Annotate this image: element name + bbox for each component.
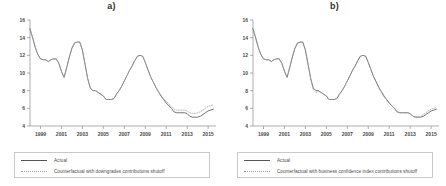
- panel-a-y-tick-label: 4: [22, 123, 25, 129]
- panel-a-y-tick-label: 10: [19, 70, 25, 76]
- panel-a-x-tick-label: 2009: [140, 131, 151, 137]
- legend-label-counterfactual: Counterfactual with downgrades contribut…: [54, 167, 165, 176]
- legend-item-actual: Actual: [238, 155, 432, 166]
- legend-label-actual: Actual: [277, 156, 290, 165]
- panel-a-x-tick-label: 2003: [77, 131, 88, 137]
- legend-item-actual: Actual: [15, 155, 209, 166]
- panel-a: a) 4681012141619992001200320052007200920…: [0, 0, 223, 186]
- panel-a-x-tick-label: 1999: [35, 131, 46, 137]
- panel-b-y-tick-label: 16: [242, 17, 248, 23]
- panel-b-x-tick-label: 2011: [384, 131, 395, 137]
- panel-b-x-tick-label: 2003: [300, 131, 311, 137]
- legend-item-counterfactual: Counterfactual with business confidence …: [238, 166, 432, 177]
- panel-a-x-tick-label: 2007: [119, 131, 130, 137]
- panel-b-chart-svg: 4681012141619992001200320052007200920112…: [223, 14, 446, 146]
- panel-a-chart-svg: 4681012141619992001200320052007200920112…: [0, 14, 223, 146]
- panel-a-series-actual: [30, 29, 213, 117]
- panel-a-x-tick-label: 2001: [56, 131, 67, 137]
- panel-b-series-actual: [253, 29, 436, 117]
- panel-a-x-tick-label: 2013: [182, 131, 193, 137]
- panel-a-y-tick-label: 14: [19, 35, 25, 41]
- figure-two-panel-line-charts: a) 4681012141619992001200320052007200920…: [0, 0, 446, 186]
- legend-label-counterfactual: Counterfactual with business confidence …: [277, 167, 417, 176]
- legend-line-sample-dotted-icon: [244, 171, 270, 173]
- legend-line-sample-solid-icon: [244, 160, 270, 162]
- panel-b: b) 4681012141619992001200320052007200920…: [223, 0, 446, 186]
- panel-a-series-counterfactual: [30, 29, 213, 114]
- panel-b-x-tick-label: 2013: [405, 131, 416, 137]
- panel-a-legend: Actual Counterfactual with downgrades co…: [14, 152, 210, 178]
- panel-b-series-counterfactual: [253, 29, 436, 117]
- panel-b-legend: Actual Counterfactual with business conf…: [237, 152, 433, 178]
- legend-line-sample-solid-icon: [21, 160, 47, 162]
- panel-b-y-tick-label: 12: [242, 52, 248, 58]
- panel-b-x-tick-label: 2015: [426, 131, 437, 137]
- panel-a-x-tick-label: 2015: [203, 131, 214, 137]
- legend-line-sample-dotted-icon: [21, 171, 47, 173]
- panel-b-y-tick-label: 14: [242, 35, 248, 41]
- panel-b-y-tick-label: 6: [245, 105, 248, 111]
- panel-a-plot-area: 4681012141619992001200320052007200920112…: [0, 14, 223, 146]
- panel-a-y-tick-label: 16: [19, 17, 25, 23]
- panel-a-title: a): [0, 1, 223, 11]
- panel-a-x-tick-label: 2005: [98, 131, 109, 137]
- legend-item-counterfactual: Counterfactual with downgrades contribut…: [15, 166, 209, 177]
- panel-b-y-tick-label: 10: [242, 70, 248, 76]
- panel-b-x-tick-label: 2005: [321, 131, 332, 137]
- panel-a-y-tick-label: 6: [22, 105, 25, 111]
- legend-label-actual: Actual: [54, 156, 67, 165]
- panel-b-y-tick-label: 4: [245, 123, 248, 129]
- panel-b-title: b): [223, 1, 446, 11]
- panel-b-plot-area: 4681012141619992001200320052007200920112…: [223, 14, 446, 146]
- panel-b-y-tick-label: 8: [245, 88, 248, 94]
- panel-a-x-tick-label: 2011: [161, 131, 172, 137]
- panel-a-y-tick-label: 8: [22, 88, 25, 94]
- panel-a-y-tick-label: 12: [19, 52, 25, 58]
- panel-b-x-tick-label: 2001: [279, 131, 290, 137]
- panel-b-x-tick-label: 2009: [363, 131, 374, 137]
- panel-b-x-tick-label: 2007: [342, 131, 353, 137]
- panel-b-x-tick-label: 1999: [258, 131, 269, 137]
